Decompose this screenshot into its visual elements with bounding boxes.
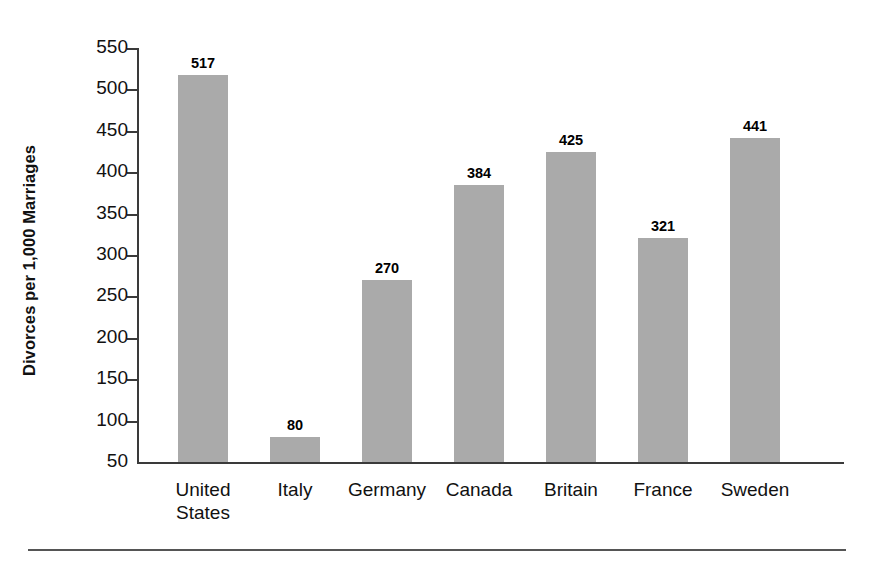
y-axis-tick-mark [127, 131, 137, 133]
bar-item[interactable]: 80 [270, 40, 320, 464]
bar-value-label: 384 [440, 165, 518, 181]
bar-item[interactable]: 441 [730, 40, 780, 464]
x-axis-category-label: Sweden [695, 478, 815, 501]
bar-value-label: 270 [348, 260, 426, 276]
y-axis-tick-label: 200 [96, 327, 128, 347]
bar-item[interactable]: 425 [546, 40, 596, 464]
y-axis-tick-mark [127, 338, 137, 340]
y-axis-line [137, 48, 139, 464]
bar-rect[interactable] [362, 280, 412, 462]
y-axis-tick-mark [127, 296, 137, 298]
y-axis-tick-label: 300 [96, 244, 128, 264]
y-axis-tick-label: 250 [96, 285, 128, 305]
bar-value-label: 517 [164, 55, 242, 71]
bar-item[interactable]: 321 [638, 40, 688, 464]
y-axis-tick-mark [127, 214, 137, 216]
y-axis-tick-mark [127, 172, 137, 174]
bar-item[interactable]: 384 [454, 40, 504, 464]
bar-rect[interactable] [178, 75, 228, 462]
y-axis-title: Divorces per 1,000 Marriages [20, 101, 39, 421]
y-axis-tick-label: 450 [96, 120, 128, 140]
bar-rect[interactable] [454, 185, 504, 462]
category-label-line: States [143, 501, 263, 524]
y-axis-tick-mark [127, 379, 137, 381]
y-axis-tick-label: 150 [96, 368, 128, 388]
plot-area: 55050045040035030025020015010050 5178027… [137, 40, 844, 464]
bar-rect[interactable] [546, 152, 596, 463]
bar-value-label: 441 [716, 118, 794, 134]
category-label-line: Sweden [695, 478, 815, 501]
bar-item[interactable]: 517 [178, 40, 228, 464]
y-axis-tick-mark [127, 421, 137, 423]
y-axis-tick-label: 100 [96, 410, 128, 430]
y-axis-tick-label: 50 [107, 451, 128, 471]
bar-rect[interactable] [730, 138, 780, 462]
bar-rect[interactable] [270, 437, 320, 462]
bar-chart-figure: Divorces per 1,000 Marriages 55050045040… [0, 0, 871, 564]
bar-value-label: 425 [532, 132, 610, 148]
y-axis-tick-label: 500 [96, 78, 128, 98]
y-axis-tick-label: 550 [96, 37, 128, 57]
bar-value-label: 321 [624, 218, 702, 234]
bar-rect[interactable] [638, 238, 688, 462]
y-axis-tick-mark [127, 255, 137, 257]
bar-value-label: 80 [256, 417, 334, 433]
y-axis-tick-label: 400 [96, 161, 128, 181]
y-axis-tick-mark [127, 89, 137, 91]
y-axis-tick-mark [127, 48, 137, 50]
footer-divider [28, 549, 846, 551]
y-axis-tick-label: 350 [96, 203, 128, 223]
bar-item[interactable]: 270 [362, 40, 412, 464]
